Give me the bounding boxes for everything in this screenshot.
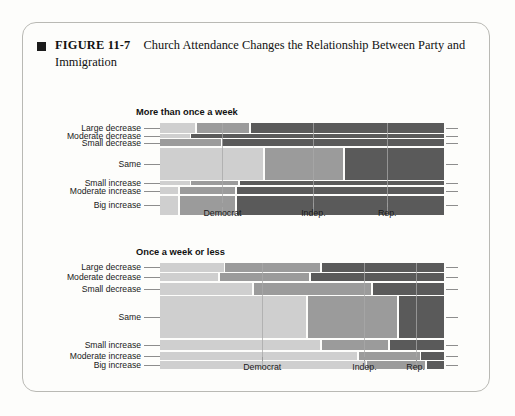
bar-segment-democrat [160,273,218,281]
panel-title-bottom: Once a week or less [136,247,225,257]
bar-segment-indep- [254,283,372,295]
y-axis-label-large-decrease: Large decrease [81,262,141,272]
figure-title: FIGURE 11-7Church Attendance Changes the… [37,37,469,70]
bar-segment-democrat [160,181,190,185]
y-axis-tick-right [446,317,458,318]
bar-segment-rep- [237,196,444,215]
bar-segment-democrat [160,296,306,338]
x-axis-tick [313,203,314,207]
y-axis-tick [144,128,160,129]
plot-area-top [160,123,444,215]
y-axis-tick [144,205,160,206]
bar-row [160,361,444,369]
y-axis-label-small-decrease: Small decrease [82,138,141,148]
bar-row [160,263,444,272]
y-axis-tick-right [446,164,458,165]
x-gridline [262,263,263,369]
bar-segment-democrat [160,283,252,295]
y-axis-tick [144,289,160,290]
y-axis-tick [144,356,160,357]
figure-page: FIGURE 11-7Church Attendance Changes the… [0,0,515,416]
y-axis-tick [144,365,160,366]
y-axis-tick [144,345,160,346]
y-axis-tick [144,317,160,318]
y-axis-tick-right [446,267,458,268]
figure-card: FIGURE 11-7Church Attendance Changes the… [22,22,490,392]
plot-area-bottom [160,263,444,369]
bar-segment-democrat [160,196,178,215]
bar-segment-democrat [160,134,190,138]
bar-segment-indep- [359,352,420,360]
y-axis-tick [144,267,160,268]
x-gridline [416,263,417,369]
y-axis-label-moderate-decrease: Moderate decrease [67,272,141,282]
bar-segment-indep- [160,139,221,146]
y-axis-tick-right [446,277,458,278]
bar-row [160,187,444,194]
y-axis-tick [144,164,160,165]
x-axis-label-democrat: Democrat [243,362,281,372]
y-axis-tick-right [446,205,458,206]
y-axis-label-small-decrease: Small decrease [82,284,141,294]
bar-segment-democrat [160,263,224,272]
y-axis-label-big-increase: Big increase [94,200,141,210]
bar-segment-democrat [160,148,263,180]
y-axis-tick [144,136,160,137]
bar-segment-democrat [160,340,320,351]
bar-segment-rep- [237,187,444,194]
bar-row [160,352,444,360]
y-axis-label-same: Same [119,312,141,322]
bar-segment-rep- [240,181,444,185]
bullet-square-icon [37,42,46,51]
bar-row [160,134,444,138]
chart-panel-more-than-once-a-week: More than once a week Large decreaseMode… [23,107,491,233]
y-axis-tick-right [446,136,458,137]
bar-row [160,148,444,180]
y-axis-label-same: Same [119,159,141,169]
bar-row [160,123,444,133]
bar-row [160,273,444,281]
x-axis-tick [262,357,263,361]
bar-segment-indep- [180,187,235,194]
y-axis-tick-right [446,183,458,184]
bar-segment-indep- [322,340,389,351]
y-axis-tick-right [446,356,458,357]
figure-number: FIGURE 11-7 [55,38,131,52]
y-axis-label-moderate-increase: Moderate increase [70,186,141,196]
bar-segment-rep- [373,283,444,295]
bar-row [160,283,444,295]
y-axis-tick [144,143,160,144]
bar-segment-democrat [160,123,195,133]
x-axis-label-democrat: Democrat [203,208,241,218]
bar-row [160,340,444,351]
x-gridline [387,123,388,215]
bar-segment-indep- [220,273,309,281]
x-axis-label-rep-: Rep. [378,208,397,218]
chart-panel-once-a-week-or-less: Once a week or less Large decreaseModera… [23,247,491,387]
x-axis-tick [222,203,223,207]
bar-segment-rep- [390,340,444,351]
y-axis-label-big-increase: Big increase [94,360,141,370]
bar-segment-rep- [399,296,444,338]
y-axis-tick-right [446,191,458,192]
bar-segment-rep- [222,139,444,146]
bar-row [160,296,444,338]
bar-segment-indep- [308,296,397,338]
y-axis-tick [144,191,160,192]
y-axis-tick-right [446,128,458,129]
panel-title-top: More than once a week [136,107,238,117]
bar-segment-rep- [345,148,444,180]
x-axis-tick [364,357,365,361]
x-axis-label-indep-: Indep. [352,362,376,372]
x-axis-label-indep-: Indep. [301,208,325,218]
bar-segment-rep- [322,263,444,272]
bar-segment-rep- [251,123,444,133]
bar-segment-indep- [191,181,238,185]
x-gridline [222,123,223,215]
y-axis-tick-right [446,345,458,346]
x-axis-tick [387,203,388,207]
bar-segment-indep- [225,263,320,272]
y-axis-tick [144,183,160,184]
x-gridline [313,123,314,215]
bar-segment-democrat [160,187,178,194]
